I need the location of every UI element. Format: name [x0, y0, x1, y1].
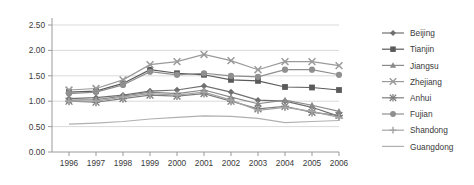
y-axis-tick-label: 2.00: [29, 45, 46, 55]
x-axis-labels: 1996199719981999200020012002200320042005…: [60, 158, 349, 168]
data-point-marker: [66, 90, 72, 96]
data-point-marker: [282, 97, 289, 103]
legend-item-shandong[interactable]: Shandong: [382, 125, 448, 135]
data-point-marker: [173, 92, 180, 99]
x-axis-tick-label: 2006: [330, 158, 349, 168]
legend-item-guangdong[interactable]: Guangdong: [382, 142, 454, 152]
legend-label: Beijing: [410, 28, 435, 38]
data-point-marker: [255, 66, 262, 73]
data-series-layer: [65, 51, 343, 124]
x-axis-tick-label: 2005: [303, 158, 322, 168]
data-point-marker: [255, 74, 261, 80]
legend-label: Anhui: [410, 93, 431, 103]
legend-label: Fujian: [410, 109, 433, 119]
line-chart: 0.000.501.001.502.002.50 199619971998199…: [0, 0, 474, 185]
legend-item-fujian[interactable]: Fujian: [382, 109, 433, 119]
x-axis-tick-label: 2001: [195, 158, 214, 168]
gridlines: [52, 25, 339, 127]
y-axis-tick-label: 0.00: [29, 147, 46, 157]
data-point-marker: [309, 85, 315, 91]
chart-legend: BeijingTianjinJiangsuZhejiangAnhuiFujian…: [382, 28, 454, 151]
data-point-marker: [174, 72, 180, 78]
x-axis-tick-label: 2003: [249, 158, 268, 168]
legend-item-tianjin[interactable]: Tianjin: [382, 44, 435, 54]
legend-label: Tianjin: [410, 44, 435, 54]
y-axis-tick-label: 0.50: [29, 122, 46, 132]
legend-item-jiangsu[interactable]: Jiangsu: [382, 61, 439, 71]
data-point-marker: [93, 89, 99, 95]
legend-label: Guangdong: [410, 142, 454, 152]
data-point-marker: [390, 30, 396, 36]
data-point-marker: [282, 84, 288, 90]
data-point-marker: [389, 94, 397, 102]
x-axis-tick-label: 2002: [222, 158, 241, 168]
data-point-marker: [92, 98, 99, 105]
legend-label: Shandong: [410, 125, 448, 135]
data-point-marker: [309, 67, 315, 73]
data-point-marker: [336, 87, 342, 93]
data-point-marker: [390, 127, 397, 134]
y-axis-tick-label: 2.50: [29, 20, 46, 30]
x-axis-tick-label: 1999: [141, 158, 160, 168]
x-axis-tick-label: 1998: [114, 158, 133, 168]
y-axis-tick-label: 1.00: [29, 96, 46, 106]
y-axis-labels: 0.000.501.001.502.002.50: [29, 20, 46, 157]
x-axis-ticks: [69, 152, 339, 156]
data-point-marker: [390, 111, 396, 117]
legend-item-zhejiang[interactable]: Zhejiang: [382, 77, 442, 87]
legend-label: Jiangsu: [410, 61, 439, 71]
x-axis-tick-label: 2000: [168, 158, 187, 168]
data-point-marker: [282, 67, 288, 73]
data-point-marker: [336, 72, 342, 78]
y-axis-ticks: [48, 25, 52, 152]
chart-container: 0.000.501.001.502.002.50 199619971998199…: [0, 0, 474, 185]
data-point-marker: [390, 46, 396, 52]
series-guangdong: [69, 116, 339, 124]
y-axis-tick-label: 1.50: [29, 71, 46, 81]
legend-label: Zhejiang: [410, 77, 442, 87]
series-line: [69, 116, 339, 124]
data-point-marker: [281, 104, 288, 111]
data-point-marker: [308, 108, 315, 115]
data-point-marker: [201, 70, 207, 76]
data-point-marker: [228, 73, 234, 79]
legend-item-anhui[interactable]: Anhui: [382, 93, 431, 103]
x-axis-tick-label: 1996: [60, 158, 79, 168]
x-axis-tick-label: 1997: [87, 158, 106, 168]
data-point-marker: [120, 82, 126, 88]
legend-item-beijing[interactable]: Beijing: [382, 28, 435, 38]
data-point-marker: [147, 69, 153, 75]
x-axis-tick-label: 2004: [276, 158, 295, 168]
